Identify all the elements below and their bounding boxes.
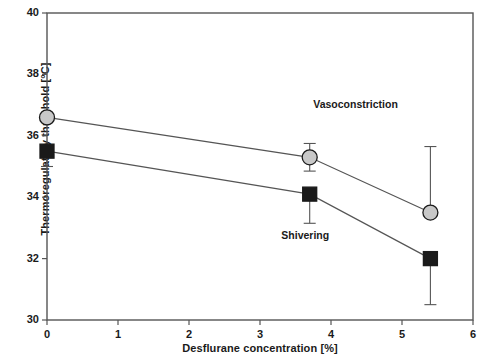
data-point-square[interactable]	[40, 144, 54, 158]
series-line	[47, 117, 430, 212]
plot-frame	[47, 13, 473, 320]
data-point-square[interactable]	[303, 187, 317, 201]
data-point-circle[interactable]	[40, 110, 55, 125]
plot-area	[0, 0, 491, 363]
data-point-square[interactable]	[423, 252, 437, 266]
series-line	[47, 151, 430, 258]
data-point-circle[interactable]	[302, 150, 317, 165]
data-point-circle[interactable]	[423, 205, 438, 220]
thermoregulatory-threshold-chart: Thermoregulatory threshold [°C] Desflura…	[0, 0, 491, 363]
